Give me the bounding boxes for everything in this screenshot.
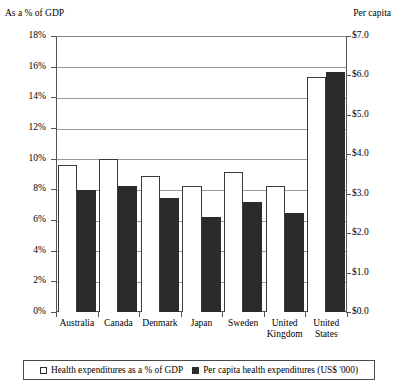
left-axis-tick-label: 10% — [29, 153, 46, 163]
bar-group — [222, 36, 264, 312]
chart-legend: Health expenditures as a % of GDPPer cap… — [23, 360, 375, 380]
right-axis-tick-label: $4.0 — [352, 148, 369, 158]
x-axis-tick-mark — [347, 312, 348, 317]
x-axis-tick-mark — [222, 312, 223, 317]
x-axis-tick-mark — [139, 312, 140, 317]
left-axis-tick-label: 18% — [29, 30, 46, 40]
legend-entry: Per capita health expenditures (US$ '000… — [192, 365, 358, 375]
bar-pct-of-gdp — [58, 165, 77, 312]
bar-per-capita — [160, 198, 179, 312]
bar-group — [98, 36, 140, 312]
bar-group — [181, 36, 223, 312]
left-axis-tick-label: 2% — [33, 275, 46, 285]
left-axis-tick-label: 8% — [33, 183, 46, 193]
legend-entry: Health expenditures as a % of GDP — [40, 365, 183, 375]
bar-group — [139, 36, 181, 312]
x-axis-category-label: Australia — [56, 318, 98, 340]
left-axis-tick-label: 12% — [29, 122, 46, 132]
left-axis-tick-label: 4% — [33, 245, 46, 255]
x-axis-category-label: Denmark — [139, 318, 181, 340]
right-axis-tick-label: $3.0 — [352, 188, 369, 198]
bar-pct-of-gdp — [307, 77, 326, 312]
x-axis-category-label: Japan — [181, 318, 223, 340]
x-axis-category-label: Canada — [98, 318, 140, 340]
bar-pct-of-gdp — [99, 159, 118, 312]
bar-pct-of-gdp — [182, 186, 201, 312]
x-axis-category-label: Sweden — [222, 318, 264, 340]
left-axis-tick-label: 16% — [29, 61, 46, 71]
left-axis-tick-label: 6% — [33, 214, 46, 224]
left-axis-tick-label: 0% — [33, 306, 46, 316]
open-square-icon — [40, 367, 47, 374]
right-axis-tick-label: $0.0 — [352, 306, 369, 316]
bar-group — [305, 36, 347, 312]
bar-group — [56, 36, 98, 312]
right-axis-title: Per capita — [353, 8, 391, 18]
bar-group — [264, 36, 306, 312]
left-axis-tick-label: 14% — [29, 91, 46, 101]
bar-per-capita — [202, 217, 221, 312]
right-axis-tick-label: $2.0 — [352, 227, 369, 237]
bar-per-capita — [118, 186, 137, 312]
left-axis-title: As a % of GDP — [5, 8, 64, 18]
bar-per-capita — [243, 202, 262, 312]
bar-per-capita — [326, 72, 345, 313]
x-axis-tick-mark — [264, 312, 265, 317]
bar-pct-of-gdp — [224, 172, 243, 312]
x-axis-category-label: UnitedKingdom — [264, 318, 306, 340]
right-axis-tick-label: $5.0 — [352, 109, 369, 119]
x-axis-category-labels: AustraliaCanadaDenmarkJapanSwedenUnitedK… — [56, 318, 347, 340]
x-axis-tick-mark — [305, 312, 306, 317]
bar-pct-of-gdp — [266, 186, 285, 312]
bar-per-capita — [285, 213, 304, 312]
x-axis-tick-mark — [56, 312, 57, 317]
right-axis-tick-label: $7.0 — [352, 30, 369, 40]
x-axis-tick-mark — [181, 312, 182, 317]
bar-groups — [56, 36, 347, 312]
dual-axis-bar-chart: As a % of GDP Per capita 0%2%4%6%8%10%12… — [0, 0, 397, 392]
bar-pct-of-gdp — [141, 176, 160, 312]
right-axis-tick-label: $6.0 — [352, 69, 369, 79]
right-axis-tick-label: $1.0 — [352, 267, 369, 277]
bar-per-capita — [77, 190, 96, 312]
x-axis-category-label: UnitedStates — [305, 318, 347, 340]
x-axis-tick-mark — [98, 312, 99, 317]
legend-label: Per capita health expenditures (US$ '000… — [203, 365, 358, 375]
legend-label: Health expenditures as a % of GDP — [51, 365, 183, 375]
filled-square-icon — [192, 367, 199, 374]
